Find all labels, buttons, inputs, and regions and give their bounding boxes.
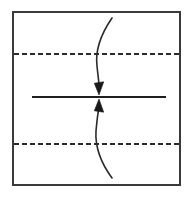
figure-background xyxy=(0,0,188,198)
figure-container xyxy=(0,0,188,198)
diagram-canvas xyxy=(0,0,188,198)
